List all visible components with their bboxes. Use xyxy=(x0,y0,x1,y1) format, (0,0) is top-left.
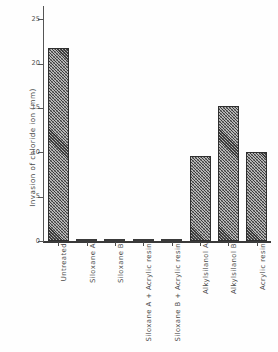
plot-area: 0510152025 xyxy=(43,6,271,242)
x-axis-label: Alkylsilanol A xyxy=(202,243,210,294)
x-axis-label: Siloxane B xyxy=(117,243,125,283)
bar xyxy=(190,156,211,241)
x-axis-category-labels: UntreatedSiloxane ASiloxane BSiloxane A … xyxy=(43,243,271,351)
x-axis-label: Siloxane A + Acrylic resin xyxy=(145,243,153,341)
bar xyxy=(161,239,182,241)
y-tick-label: 5 xyxy=(36,192,40,200)
y-tick-label: 10 xyxy=(32,148,40,156)
bar xyxy=(246,152,267,241)
bar-series xyxy=(44,6,271,241)
x-axis-label: Siloxane A xyxy=(89,243,97,283)
bar xyxy=(133,239,154,241)
x-axis-label: Untreated xyxy=(60,243,68,281)
x-axis-label: Alkylsilanol B xyxy=(230,243,238,294)
y-tick-label: 25 xyxy=(32,15,40,23)
x-axis-label: Siloxane B + Acrylic resin xyxy=(174,243,182,341)
x-axis-label: Acrylic resin xyxy=(259,243,267,290)
bar xyxy=(76,239,97,241)
bar xyxy=(48,48,69,241)
bar-chart-figure: Invasion of chloride ion (mm) 0510152025… xyxy=(0,0,278,352)
y-tick-label: 15 xyxy=(32,103,40,111)
bar xyxy=(218,106,239,241)
bar xyxy=(104,239,125,241)
y-tick-label: 0 xyxy=(36,237,40,245)
y-tick-label: 20 xyxy=(32,59,40,67)
